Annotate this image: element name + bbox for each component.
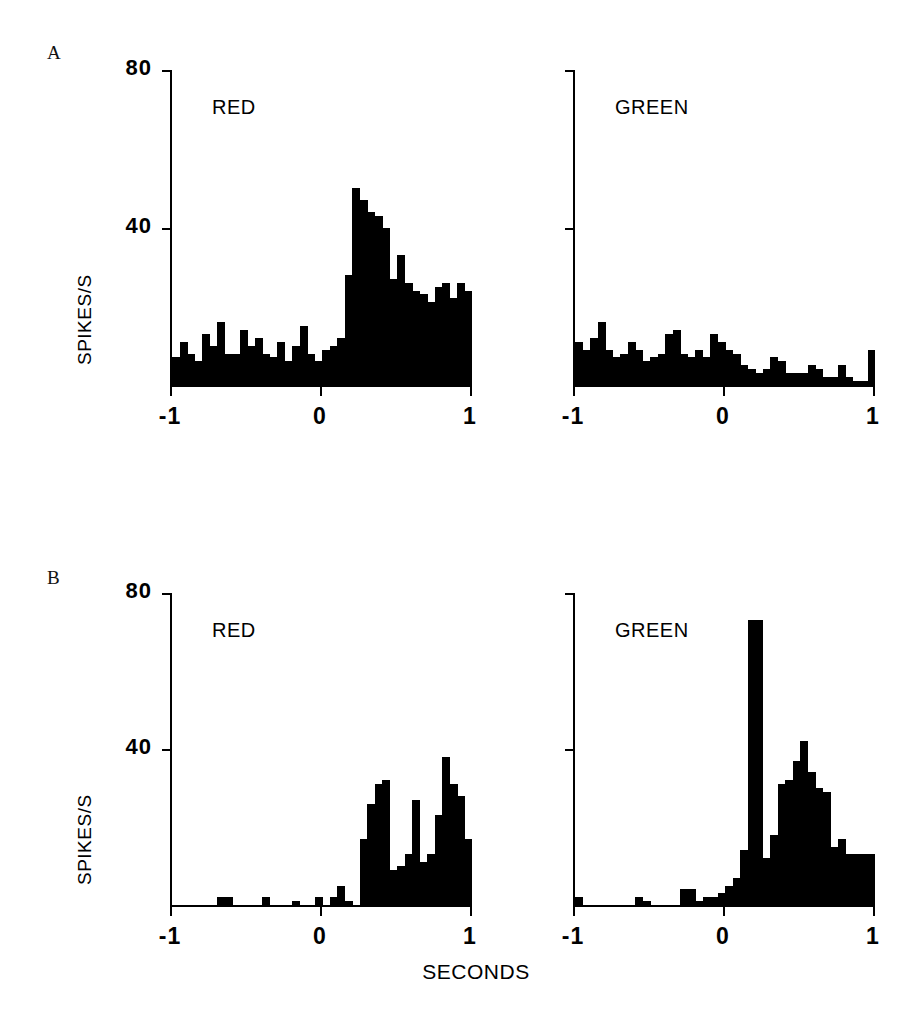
plot-b-green: -101GREEN bbox=[0, 0, 911, 1032]
psth-figure: A B SPIKES/S SPIKES/S SECONDS 8040-101RE… bbox=[0, 0, 911, 1032]
histogram-bar bbox=[575, 897, 583, 905]
x-tick-label-neg1: -1 bbox=[533, 923, 613, 950]
y-tick-40 bbox=[565, 749, 574, 751]
x-tick-label-1: 1 bbox=[833, 923, 911, 950]
x-tick-label-0: 0 bbox=[683, 923, 763, 950]
histogram-bar bbox=[868, 854, 876, 905]
x-tick-1 bbox=[873, 907, 875, 916]
histogram-bar bbox=[643, 901, 651, 905]
y-tick-80 bbox=[565, 593, 574, 595]
x-tick-neg1 bbox=[573, 907, 575, 916]
x-tick-0 bbox=[723, 907, 725, 916]
histogram-bars bbox=[575, 593, 875, 905]
